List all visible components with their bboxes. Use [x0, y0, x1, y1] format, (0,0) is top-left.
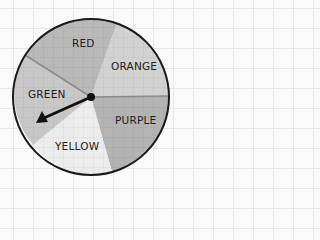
label-green: GREEN: [28, 88, 66, 100]
divider: [91, 96, 169, 97]
label-red: RED: [72, 37, 95, 49]
label-orange: ORANGE: [111, 60, 157, 72]
label-purple: PURPLE: [115, 114, 156, 126]
spinner-hub: [87, 93, 95, 101]
label-yellow: YELLOW: [54, 140, 100, 152]
spinner: RED ORANGE PURPLE YELLOW GREEN: [0, 0, 179, 187]
